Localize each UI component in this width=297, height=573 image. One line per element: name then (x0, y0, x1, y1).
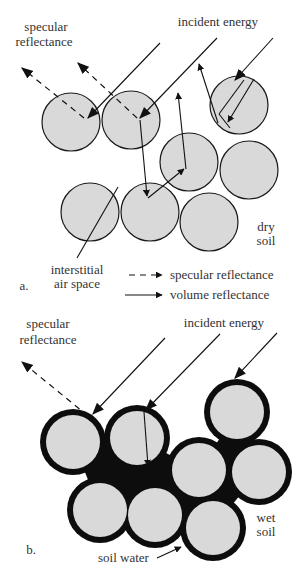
air-label-line1: interstitial (51, 262, 104, 277)
soil-particle (232, 445, 286, 499)
soil-particle (121, 183, 179, 241)
legend-item-volume: volume reflectance (125, 287, 269, 302)
soil-reflectance-diagram: specular reflectance incident energy dry… (0, 0, 297, 573)
legend-label-specular: specular reflectance (170, 267, 274, 282)
soil-water-pointer (157, 547, 181, 558)
soil-particle (42, 93, 100, 151)
legend-label-volume: volume reflectance (170, 287, 269, 302)
specular-label-a-line2: reflectance (15, 34, 72, 49)
legend-item-specular: specular reflectance (129, 267, 274, 282)
panel-b-label: b. (26, 542, 36, 557)
soil-particle (210, 385, 264, 439)
soil-particle (61, 183, 119, 241)
air-label-line2: air space (54, 276, 100, 291)
specular-label-b-line2: reflectance (19, 332, 76, 347)
soil-label-b-line2: soil (257, 524, 276, 539)
panel-a-dry-soil: specular reflectance incident energy dry… (15, 14, 278, 302)
specular-label-b-line1: specular (26, 316, 70, 331)
panel-b-wet-soil: specular reflectance incident energy wet… (19, 315, 292, 565)
legend: specular reflectance volume reflectance (125, 267, 274, 302)
soil-particle (46, 415, 100, 469)
soil-particle (110, 411, 164, 465)
soil-particle (180, 193, 238, 251)
soil-label-a-line1: dry (257, 219, 275, 234)
soil-particle (160, 133, 218, 191)
soil-label-a-line2: soil (257, 233, 276, 248)
soil-label-b-line1: wet (257, 510, 276, 525)
soil-particle (73, 483, 127, 537)
soil-particle (128, 488, 182, 542)
soil-particle (220, 141, 278, 199)
soil-particle (172, 443, 226, 497)
soil-particle (186, 501, 240, 555)
incident-label-a: incident energy (178, 14, 259, 29)
soil-water-label: soil water (98, 550, 150, 565)
dry-soil-particles (42, 76, 278, 251)
specular-label-a-line1: specular (24, 19, 68, 34)
incident-label-b: incident energy (184, 315, 265, 330)
soil-particle (102, 91, 160, 149)
panel-a-label: a. (19, 278, 28, 293)
specular-reflectance-arrow-b (22, 362, 88, 416)
soil-particle (210, 76, 268, 134)
